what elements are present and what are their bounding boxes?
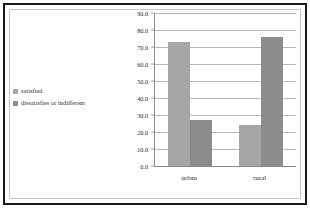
y-axis-tick-label: 30.0 xyxy=(137,112,148,119)
plot-area xyxy=(154,13,296,167)
y-axis-tick-label: 80.0 xyxy=(137,27,148,34)
legend-item-dissatisfies-or-indifferent: dissatisfies or indifferent xyxy=(13,99,121,107)
plot-wrapper: 90.080.070.060.050.040.030.020.010.00.0 … xyxy=(127,13,297,193)
y-axis-tick-label: 10.0 xyxy=(137,146,148,153)
y-axis-tick-label: 90.0 xyxy=(137,10,148,17)
gridline xyxy=(155,30,296,31)
bar-rural-dissatisfies-or-indifferent xyxy=(261,37,283,166)
legend-item-satisfied: satisfied xyxy=(13,87,121,95)
chart-plot-container: satisfied dissatisfies or indifferent 90… xyxy=(9,9,301,199)
legend-swatch-icon xyxy=(13,101,18,106)
gridline xyxy=(155,13,296,14)
y-axis-tick-label: 60.0 xyxy=(137,61,148,68)
x-axis-tick-label: rural xyxy=(253,174,266,181)
y-axis-tick-label: 50.0 xyxy=(137,78,148,85)
bar-rural-satisfied xyxy=(239,125,261,166)
y-axis-tick-label: 20.0 xyxy=(137,129,148,136)
legend-swatch-icon xyxy=(13,89,18,94)
legend-item-label: satisfied xyxy=(21,87,43,95)
chart-legend: satisfied dissatisfies or indifferent xyxy=(13,87,121,111)
bar-urban-satisfied xyxy=(168,42,190,166)
bar-urban-dissatisfies-or-indifferent xyxy=(190,120,212,166)
chart-figure: satisfied dissatisfies or indifferent 90… xyxy=(0,0,310,208)
y-axis-tick-label: 40.0 xyxy=(137,95,148,102)
x-axis-tick-label: urban xyxy=(182,174,197,181)
y-axis: 90.080.070.060.050.040.030.020.010.00.0 xyxy=(127,13,151,166)
x-axis: urbanrural xyxy=(154,170,295,186)
legend-item-label: dissatisfies or indifferent xyxy=(21,99,85,107)
y-axis-tick-label: 70.0 xyxy=(137,44,148,51)
y-axis-tick-label: 0.0 xyxy=(140,163,148,170)
